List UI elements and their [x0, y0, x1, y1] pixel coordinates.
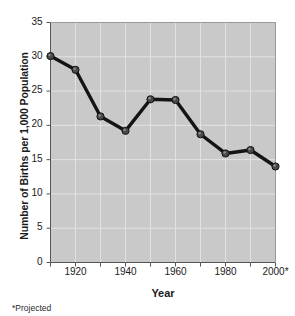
data-point-marker [147, 96, 154, 103]
y-tick-label: 10 [17, 187, 43, 198]
x-tick-label: 1920 [53, 266, 99, 277]
y-tick-label: 20 [17, 118, 43, 129]
plot-background [51, 23, 276, 263]
data-point-marker [222, 150, 229, 157]
data-point-highlight [123, 129, 125, 131]
birth-rate-line-chart: Number of Births per 1,000 Population 05… [0, 0, 294, 316]
x-tick-label: 1960 [153, 266, 199, 277]
data-point-marker [272, 163, 279, 170]
data-point-marker [47, 53, 54, 60]
x-tick-label: 1940 [103, 266, 149, 277]
data-point-highlight [148, 97, 150, 99]
data-point-marker [97, 113, 104, 120]
y-tick-label: 0 [17, 256, 43, 267]
data-point-marker [72, 66, 79, 73]
data-point-marker [247, 146, 254, 153]
data-point-highlight [248, 148, 250, 150]
data-point-marker [122, 127, 129, 134]
data-point-highlight [98, 114, 100, 116]
data-point-highlight [173, 98, 175, 100]
chart-footnote: *Projected [12, 303, 51, 313]
y-tick-label: 35 [17, 16, 43, 27]
y-tick-label: 25 [17, 84, 43, 95]
data-point-highlight [73, 68, 75, 70]
y-tick-label: 15 [17, 153, 43, 164]
data-point-highlight [273, 164, 275, 166]
x-axis-title: Year [50, 287, 276, 299]
y-tick-label: 5 [17, 221, 43, 232]
data-point-marker [172, 96, 179, 103]
data-point-highlight [48, 54, 50, 56]
x-tick-label: 2000* [253, 266, 295, 277]
data-point-highlight [198, 132, 200, 134]
y-tick-label: 30 [17, 50, 43, 61]
x-tick-label: 1980 [203, 266, 249, 277]
data-point-marker [197, 131, 204, 138]
data-point-highlight [223, 151, 225, 153]
